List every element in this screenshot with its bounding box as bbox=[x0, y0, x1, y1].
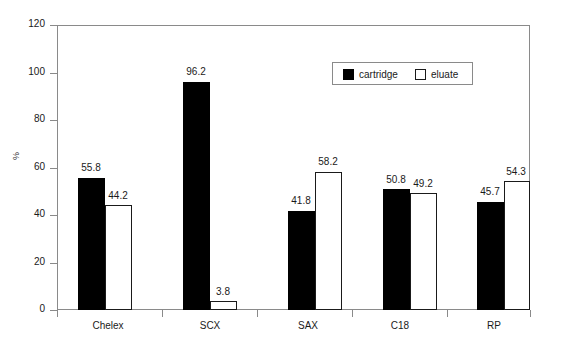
bar-value-sax-cartridge: 41.8 bbox=[291, 195, 310, 206]
legend-item-eluate: eluate bbox=[415, 68, 458, 80]
x-axis-label-sax: SAX bbox=[298, 320, 318, 331]
y-axis-label: % bbox=[11, 144, 21, 168]
bar-sax-cartridge bbox=[288, 211, 315, 310]
filled-square-icon bbox=[343, 69, 354, 80]
bar-value-scx-eluate: 3.8 bbox=[216, 286, 230, 297]
x-tick-sep-1 bbox=[162, 310, 163, 317]
bar-value-sax-eluate: 58.2 bbox=[318, 156, 337, 167]
bar-sax-eluate bbox=[315, 172, 342, 310]
y-tick-label-40: 40 bbox=[34, 208, 45, 219]
bar-value-chelex-cartridge: 55.8 bbox=[81, 162, 100, 173]
x-axis-label-rp: RP bbox=[487, 320, 501, 331]
x-tick-sep-0 bbox=[57, 310, 58, 317]
bar-c18-eluate bbox=[410, 193, 437, 310]
bar-rp-cartridge bbox=[477, 202, 504, 311]
x-tick-sep-5 bbox=[530, 310, 531, 317]
y-tick-label-100: 100 bbox=[28, 66, 45, 77]
bar-c18-cartridge bbox=[383, 189, 410, 310]
y-tick-label-0: 0 bbox=[39, 303, 45, 314]
bar-chart: % 0 20 40 60 80 100 120 55.8 44.2 96.2 3… bbox=[0, 0, 570, 345]
y-tick-mark-100 bbox=[50, 73, 57, 74]
y-tick-mark-0 bbox=[50, 310, 57, 311]
y-tick-label-80: 80 bbox=[34, 113, 45, 124]
legend-item-cartridge: cartridge bbox=[343, 68, 398, 80]
bar-value-rp-cartridge: 45.7 bbox=[480, 186, 499, 197]
x-axis-label-c18: C18 bbox=[391, 320, 409, 331]
y-tick-mark-20 bbox=[50, 263, 57, 264]
x-axis-label-scx: SCX bbox=[200, 320, 221, 331]
y-tick-label-20: 20 bbox=[34, 256, 45, 267]
bar-chelex-cartridge bbox=[78, 178, 105, 311]
bar-chelex-eluate bbox=[105, 205, 132, 310]
y-tick-mark-60 bbox=[50, 168, 57, 169]
x-tick-sep-4 bbox=[447, 310, 448, 317]
y-tick-mark-40 bbox=[50, 215, 57, 216]
y-tick-mark-80 bbox=[50, 120, 57, 121]
bar-value-c18-cartridge: 50.8 bbox=[386, 174, 405, 185]
bar-rp-eluate bbox=[504, 181, 530, 310]
legend-label-eluate: eluate bbox=[431, 69, 458, 80]
bar-scx-cartridge bbox=[183, 82, 210, 311]
bar-scx-eluate bbox=[210, 301, 237, 310]
hollow-square-icon bbox=[415, 69, 426, 80]
x-tick-sep-3 bbox=[352, 310, 353, 317]
legend: cartridge eluate bbox=[332, 62, 473, 85]
bar-value-rp-eluate: 54.3 bbox=[506, 166, 525, 177]
bar-value-scx-cartridge: 96.2 bbox=[186, 66, 205, 77]
bar-value-c18-eluate: 49.2 bbox=[413, 178, 432, 189]
y-tick-mark-120 bbox=[50, 25, 57, 26]
x-axis-label-chelex: Chelex bbox=[92, 320, 123, 331]
bar-value-chelex-eluate: 44.2 bbox=[108, 190, 127, 201]
x-tick-sep-2 bbox=[257, 310, 258, 317]
legend-label-cartridge: cartridge bbox=[359, 69, 398, 80]
y-tick-label-60: 60 bbox=[34, 161, 45, 172]
y-tick-label-120: 120 bbox=[28, 18, 45, 29]
